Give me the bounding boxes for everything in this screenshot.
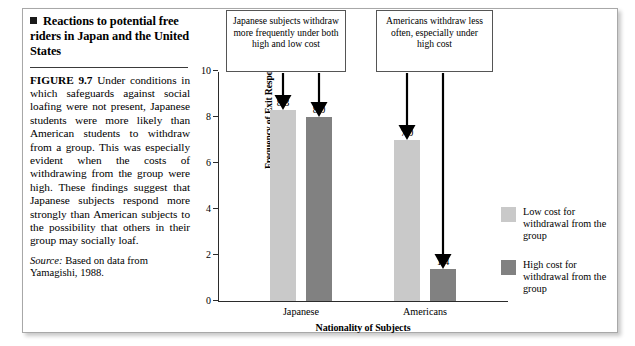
callout-japanese: Japanese subjects withdraw more frequent… bbox=[226, 10, 346, 72]
y-tick-label-10: 10 bbox=[192, 66, 211, 76]
y-tick-label-2: 2 bbox=[192, 250, 211, 260]
legend-label-low-cost: Low cost for withdrawal from the group bbox=[523, 206, 613, 243]
y-tick-6 bbox=[213, 162, 218, 163]
x-category-label-americans: Americans bbox=[370, 306, 480, 317]
legend-item-low-cost: Low cost for withdrawal from the group bbox=[501, 206, 613, 243]
bar-value-americans-high-cost: 1.4 bbox=[423, 256, 463, 267]
y-axis-line bbox=[218, 72, 219, 302]
legend-item-high-cost: High cost for withdrawal from the group bbox=[501, 259, 613, 296]
y-tick-label-8: 8 bbox=[192, 112, 211, 122]
bar-value-americans-low-cost: 7.0 bbox=[387, 127, 427, 138]
legend-swatch-high-cost bbox=[501, 260, 516, 275]
figure-source: Source: Based on data from Yamagishi, 19… bbox=[30, 255, 190, 280]
bar-americans-high-cost bbox=[430, 269, 456, 301]
header-divider bbox=[30, 67, 188, 68]
y-tick-label-0: 0 bbox=[192, 296, 211, 306]
bar-japanese-high-cost bbox=[306, 117, 332, 301]
y-tick-label-4: 4 bbox=[192, 204, 211, 214]
x-category-label-japanese: Japanese bbox=[246, 306, 356, 317]
y-tick-8 bbox=[213, 116, 218, 117]
y-tick-2 bbox=[213, 254, 218, 255]
bar-americans-low-cost bbox=[394, 140, 420, 301]
y-tick-label-6: 6 bbox=[192, 158, 211, 168]
caption-column: Reactions to potential free riders in Ja… bbox=[30, 14, 190, 324]
figure-caption: FIGURE 9.7 Under conditions in which saf… bbox=[30, 74, 190, 248]
header-title-text: Reactions to potential free riders in Ja… bbox=[30, 14, 189, 58]
legend-label-high-cost: High cost for withdrawal from the group bbox=[523, 259, 613, 296]
callout-americans: Americans withdraw less often, especiall… bbox=[376, 10, 493, 72]
chart-legend: Low cost for withdrawal from the group H… bbox=[501, 206, 613, 311]
caption-body: Under conditions in which safeguards aga… bbox=[30, 74, 190, 247]
bar-value-japanese-low-cost: 8.3 bbox=[263, 97, 303, 108]
figure-header-title: Reactions to potential free riders in Ja… bbox=[30, 14, 190, 60]
bar-chart: Frequency of Exit Responses 0 2 4 6 8 10… bbox=[196, 10, 616, 330]
y-tick-10 bbox=[213, 70, 218, 71]
bar-japanese-low-cost bbox=[270, 110, 296, 301]
square-bullet-icon bbox=[30, 17, 37, 24]
x-axis-line bbox=[218, 301, 508, 302]
source-label: Source: bbox=[30, 255, 63, 266]
plot-area: 0 2 4 6 8 10 8.3 8.0 7.0 1.4 Japanese Am… bbox=[218, 72, 508, 302]
figure-page: Reactions to potential free riders in Ja… bbox=[0, 0, 635, 346]
legend-swatch-low-cost bbox=[501, 207, 516, 222]
y-tick-0 bbox=[213, 300, 218, 301]
x-axis-title: Nationality of Subjects bbox=[218, 322, 508, 333]
bar-value-japanese-high-cost: 8.0 bbox=[299, 104, 339, 115]
caption-label: FIGURE 9.7 bbox=[30, 74, 92, 86]
y-tick-4 bbox=[213, 208, 218, 209]
